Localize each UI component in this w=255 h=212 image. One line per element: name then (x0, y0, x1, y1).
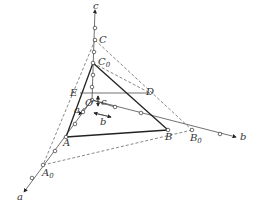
label-point-b: B (164, 131, 172, 142)
label-unit-b: b (100, 116, 106, 127)
solid-plane-abc0 (66, 63, 168, 137)
label-point-a0: A0 (41, 167, 54, 180)
label-unit-a: a (74, 104, 80, 115)
label-point-b0: B0 (189, 132, 202, 145)
label-axis-c: c (93, 0, 99, 11)
label-point-e: E (69, 87, 78, 98)
axis-a (24, 100, 92, 192)
label-point-d: D (145, 86, 154, 97)
label-point-c: C (99, 34, 107, 45)
label-unit-c: c (101, 96, 107, 107)
points-c-axis (90, 26, 97, 102)
crystal-axes-diagram: c C C0 E D O c b a A B B0 A0 a b (0, 0, 255, 212)
label-origin-o: O (85, 97, 93, 108)
label-point-c0: C0 (98, 56, 111, 69)
label-point-a: A (62, 137, 70, 148)
label-axis-a: a (17, 191, 23, 202)
label-axis-b: b (240, 131, 246, 142)
